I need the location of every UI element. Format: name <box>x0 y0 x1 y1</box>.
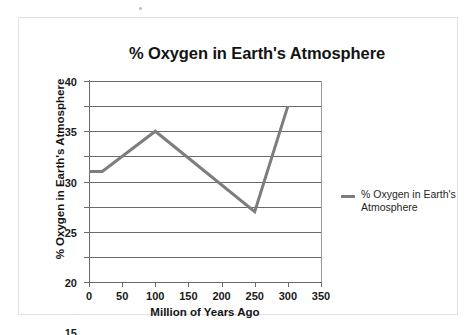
chart-legend: % Oxygen in Earth's Atmosphere <box>341 188 469 214</box>
legend-label-oxygen: % Oxygen in Earth's Atmosphere <box>361 188 469 214</box>
x-axis-line <box>89 282 322 283</box>
y-tick-label-20: 20 <box>65 277 77 289</box>
x-tick-label-350: 350 <box>312 290 330 302</box>
x-tick-label-0: 0 <box>86 290 92 302</box>
x-tick-label-300: 300 <box>279 290 297 302</box>
y-tick-label-30: 30 <box>65 177 77 189</box>
y-tick-label-25: 25 <box>65 227 77 239</box>
image-artifact-speck <box>139 7 142 10</box>
chart-title: % Oxygen in Earth's Atmosphere <box>37 44 473 63</box>
plot-right-edge <box>321 81 322 282</box>
x-tick-label-100: 100 <box>146 290 164 302</box>
x-tick-label-250: 250 <box>246 290 264 302</box>
x-tick-label-200: 200 <box>212 290 230 302</box>
series-line-oxygen <box>89 81 321 282</box>
x-axis-label: Million of Years Ago <box>74 306 336 318</box>
legend-swatch-oxygen <box>341 195 355 198</box>
y-tick-label-15: 15 <box>65 327 77 335</box>
x-tick-label-50: 50 <box>116 290 128 302</box>
plot-wrap: 0510152025303540 050100150200250300350 <box>89 81 321 282</box>
chart-frame: % Oxygen in Earth's Atmosphere % Oxygen … <box>18 17 458 315</box>
x-tick-label-150: 150 <box>179 290 197 302</box>
y-tick-label-40: 40 <box>65 76 77 88</box>
plot-area: 0510152025303540 050100150200250300350 <box>89 81 321 282</box>
chart-figure: % Oxygen in Earth's Atmosphere % Oxygen … <box>0 0 473 335</box>
y-tick-label-35: 35 <box>65 126 77 138</box>
